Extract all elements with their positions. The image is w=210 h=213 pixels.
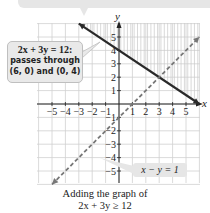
svg-text:−5: −5	[47, 106, 58, 117]
svg-text:5: 5	[184, 106, 189, 117]
callout-text: passes through	[8, 55, 82, 66]
svg-text:4: 4	[170, 106, 175, 117]
caption-line-1: Adding the graph of	[0, 188, 210, 200]
svg-text:3: 3	[111, 58, 116, 69]
figure-caption: Adding the graph of 2x + 3y ≥ 12	[0, 188, 210, 212]
svg-text:−3: −3	[105, 139, 116, 150]
svg-text:−4: −4	[60, 106, 71, 117]
callout-equation: 2x + 3y = 12:	[8, 44, 82, 55]
coordinate-plane: −5−4−3−2−11234554321−1−2−3−4−5 x y	[0, 0, 210, 213]
svg-text:1: 1	[111, 85, 116, 96]
caption-line-2: 2x + 3y ≥ 12	[0, 200, 210, 212]
svg-text:−2: −2	[87, 106, 98, 117]
callout-points: (6, 0) and (0, 4)	[8, 66, 82, 77]
svg-text:2: 2	[143, 106, 148, 117]
svg-text:−2: −2	[105, 125, 116, 136]
svg-text:2: 2	[111, 72, 116, 83]
svg-text:−3: −3	[73, 106, 84, 117]
svg-text:−1: −1	[105, 112, 116, 123]
dashed-line-label: x − y = 1	[133, 163, 187, 177]
svg-text:−5: −5	[105, 166, 116, 177]
svg-text:5: 5	[111, 32, 116, 43]
svg-text:3: 3	[157, 106, 162, 117]
svg-text:1: 1	[130, 106, 135, 117]
x-axis-label: x	[201, 97, 207, 109]
equation-callout: 2x + 3y = 12: passes through (6, 0) and …	[7, 41, 83, 83]
y-axis-label: y	[114, 10, 120, 22]
